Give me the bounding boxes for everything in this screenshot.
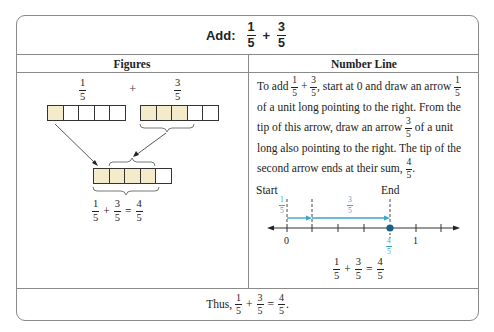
arrow2-label: 35 [347, 196, 353, 214]
axis-arrow-left-icon [267, 226, 274, 231]
tick-label-1: 1 [413, 235, 418, 246]
conclusion: Thus, 15 + 35 = 45. [16, 290, 479, 318]
arrow1-label: 15 [279, 196, 285, 214]
numberline-equation: 15 + 35 = 45 [333, 257, 384, 281]
tick-label-0: 0 [284, 235, 289, 246]
arrow-head-icon [306, 216, 312, 221]
arrow-head-icon [384, 216, 390, 221]
sum-point [386, 224, 393, 231]
sum-point-label: 45 [386, 237, 392, 255]
number-line [0, 0, 494, 332]
axis-arrow-right-icon [453, 226, 460, 231]
